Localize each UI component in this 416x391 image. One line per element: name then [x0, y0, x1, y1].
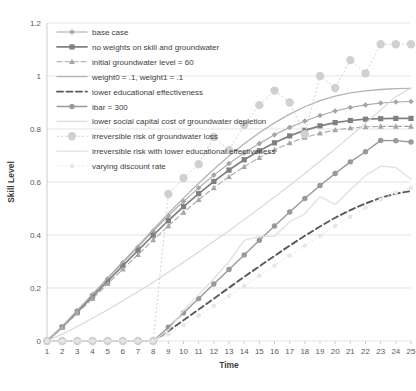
- legend-item[interactable]: irreversible risk of groundwater loss: [57, 132, 218, 141]
- y-tick-label: 0.6: [30, 178, 42, 187]
- y-axis-title: Skill Level: [6, 161, 16, 203]
- x-tick-label: 7: [136, 347, 141, 356]
- data-point: [270, 86, 278, 94]
- legend-swatch-marker: [69, 29, 75, 35]
- legend-item-label: irreversible risk with lower educational…: [92, 147, 276, 156]
- legend-item[interactable]: varying discount rate: [57, 162, 166, 171]
- data-point: [408, 99, 414, 105]
- data-point: [211, 281, 216, 286]
- series-10: [45, 186, 413, 344]
- x-axis-title: Time: [219, 360, 239, 370]
- x-tick-label: 9: [166, 347, 171, 356]
- data-point: [75, 339, 79, 343]
- data-point: [303, 243, 307, 247]
- legend-item[interactable]: no weights on skill and groundwater: [57, 43, 220, 52]
- data-point: [194, 160, 202, 168]
- x-tick-label: 13: [225, 347, 234, 356]
- data-point: [242, 284, 246, 288]
- gridlines: [47, 23, 411, 341]
- x-tick-label: 20: [331, 347, 340, 356]
- data-point: [333, 224, 337, 228]
- data-point: [376, 40, 384, 48]
- data-point: [164, 190, 172, 198]
- legend-item-label: no weights on skill and groundwater: [92, 43, 220, 52]
- x-tick-label: 8: [151, 347, 156, 356]
- legend-swatch-marker: [69, 44, 74, 49]
- legend-item-label: irreversible risk of groundwater loss: [92, 132, 218, 141]
- legend-item[interactable]: lower social capital cost of groundwater…: [57, 117, 266, 126]
- data-point: [348, 215, 352, 219]
- legend-item-label: weight0 = .1, weight1 = .1: [91, 73, 184, 82]
- data-point: [242, 157, 247, 162]
- data-point: [272, 140, 277, 145]
- x-tick-label: 2: [60, 347, 65, 356]
- legend-item-label: lower educational effectiveness: [92, 88, 203, 97]
- data-point: [196, 313, 200, 317]
- data-point: [121, 339, 125, 343]
- x-tick-label: 12: [209, 347, 218, 356]
- data-point: [272, 223, 277, 228]
- data-point: [257, 274, 261, 278]
- legend-item[interactable]: base case: [57, 28, 129, 37]
- data-point: [317, 113, 323, 119]
- legend-item-label: varying discount rate: [92, 162, 166, 171]
- x-tick-label: 14: [240, 347, 249, 356]
- data-point: [316, 72, 324, 80]
- data-point: [361, 69, 369, 77]
- data-point: [226, 167, 231, 172]
- legend-item[interactable]: ibar = 300: [57, 103, 128, 112]
- data-point: [392, 40, 400, 48]
- legend-item[interactable]: weight0 = .1, weight1 = .1: [57, 73, 184, 82]
- legend-swatch-marker: [68, 132, 76, 140]
- x-tick-label: 4: [90, 347, 95, 356]
- x-axis-ticks: 1234567891011121314151617181920212223242…: [45, 341, 416, 356]
- skill-level-line-chart: 00.20.40.60.811.212345678910111213141516…: [0, 0, 416, 391]
- data-point: [285, 98, 293, 106]
- legend-swatch-marker: [69, 104, 74, 109]
- data-point: [317, 183, 322, 188]
- data-point: [378, 116, 383, 121]
- y-tick-label: 1.2: [30, 19, 42, 28]
- y-tick-label: 0.2: [30, 284, 42, 293]
- data-point: [363, 206, 367, 210]
- legend-item-label: ibar = 300: [92, 103, 128, 112]
- data-point: [151, 339, 155, 343]
- data-point: [346, 56, 354, 64]
- legend: base caseno weights on skill and groundw…: [57, 28, 276, 171]
- data-point: [287, 133, 292, 138]
- data-point: [287, 125, 293, 131]
- x-tick-label: 22: [361, 347, 370, 356]
- data-point: [181, 209, 187, 214]
- data-point: [227, 294, 231, 298]
- y-tick-label: 0.4: [30, 231, 42, 240]
- legend-swatch-marker: [70, 164, 74, 168]
- data-point: [393, 116, 398, 121]
- data-point: [363, 102, 369, 108]
- data-point: [211, 185, 217, 190]
- legend-item[interactable]: initial groundwater level = 60: [57, 58, 194, 67]
- x-tick-label: 16: [270, 347, 279, 356]
- data-point: [393, 138, 398, 143]
- data-point: [333, 120, 338, 125]
- series-line: [47, 188, 411, 341]
- y-tick-label: 0.8: [30, 125, 42, 134]
- series-8: [43, 40, 415, 345]
- legend-item-label: initial groundwater level = 60: [92, 58, 194, 67]
- x-tick-label: 15: [255, 347, 264, 356]
- data-point: [241, 164, 247, 169]
- data-point: [287, 253, 291, 257]
- data-point: [60, 339, 64, 343]
- legend-item[interactable]: irreversible risk with lower educational…: [57, 147, 276, 156]
- data-point: [331, 84, 339, 92]
- legend-item[interactable]: lower educational effectiveness: [57, 88, 203, 97]
- data-point: [166, 218, 171, 223]
- data-point: [407, 40, 415, 48]
- x-tick-label: 21: [346, 347, 355, 356]
- x-tick-label: 6: [121, 347, 126, 356]
- x-tick-label: 11: [195, 347, 204, 356]
- data-point: [408, 116, 413, 121]
- chart-container: 00.20.40.60.811.212345678910111213141516…: [0, 0, 416, 391]
- series-5: [47, 191, 411, 341]
- data-point: [408, 139, 413, 144]
- data-point: [90, 339, 94, 343]
